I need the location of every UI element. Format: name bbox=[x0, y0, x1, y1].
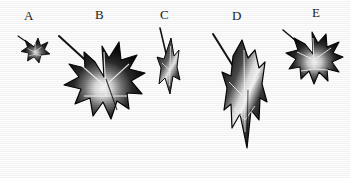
figure-plate: A B C D E bbox=[0, 0, 350, 178]
blade-c bbox=[157, 38, 180, 94]
blade-e bbox=[286, 32, 343, 84]
specimen-label-c: C bbox=[160, 8, 169, 21]
specimen-c bbox=[146, 26, 188, 98]
specimen-label-e: E bbox=[312, 6, 320, 19]
blade-a bbox=[21, 38, 50, 63]
specimen-a bbox=[14, 30, 54, 64]
specimen-label-b: B bbox=[95, 8, 104, 21]
specimen-d bbox=[203, 28, 279, 156]
specimen-b bbox=[57, 24, 149, 124]
specimen-e bbox=[281, 24, 347, 86]
specimen-label-d: D bbox=[232, 9, 241, 22]
specimen-label-a: A bbox=[24, 9, 33, 22]
